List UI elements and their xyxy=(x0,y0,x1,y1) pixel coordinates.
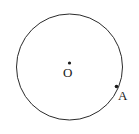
geometry-figure: O A xyxy=(0,0,139,134)
center-point-label: O xyxy=(63,66,72,79)
point-a-label: A xyxy=(118,89,127,102)
